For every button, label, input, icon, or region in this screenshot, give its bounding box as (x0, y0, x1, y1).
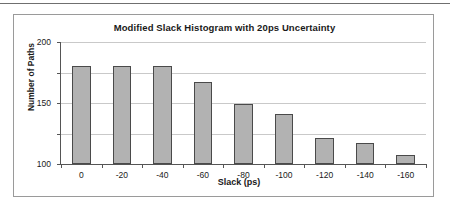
x-axis-tick (264, 164, 265, 168)
chart-frame: Modified Slack Histogram with 20ps Uncer… (13, 14, 434, 197)
x-axis-tick (385, 164, 386, 168)
bar (72, 66, 91, 164)
y-axis-title: Number of Paths (26, 32, 36, 122)
chart-page: Modified Slack Histogram with 20ps Uncer… (0, 0, 450, 211)
y-axis-tick: 150 (57, 73, 61, 74)
x-axis-tick (223, 164, 224, 168)
x-axis-tick (426, 164, 427, 168)
bar (234, 104, 253, 164)
y-axis-tick: 200 (57, 42, 61, 43)
bar (194, 82, 213, 164)
x-axis-tick (183, 164, 184, 168)
bar (113, 66, 132, 164)
bar (356, 143, 375, 164)
y-axis-tick: 100 (57, 103, 61, 104)
x-axis-title: Slack (ps) (54, 177, 424, 187)
x-axis-tick (102, 164, 103, 168)
bar (315, 138, 334, 164)
x-axis-tick (61, 164, 62, 168)
chart-title: Modified Slack Histogram with 20ps Uncer… (14, 22, 435, 33)
y-axis-tick-label: 100 (37, 159, 51, 169)
x-axis-tick (304, 164, 305, 168)
y-axis-tick: 50 (57, 134, 61, 135)
bar (275, 114, 294, 164)
y-axis-tick-label: 200 (37, 37, 51, 47)
gridline (61, 42, 426, 43)
x-axis-tick (142, 164, 143, 168)
y-axis-tick-label: 150 (37, 98, 51, 108)
bar (153, 66, 172, 164)
x-axis-tick (345, 164, 346, 168)
bar (396, 155, 415, 164)
page-top-rule (0, 3, 450, 4)
plot-area: 050100150200 0-20-40-60-80-100-120-140-1… (60, 42, 426, 165)
